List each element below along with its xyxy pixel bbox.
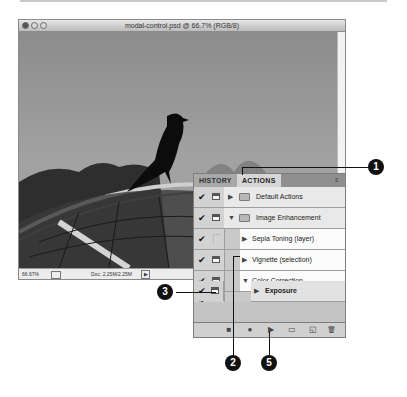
tab-history[interactable]: HISTORY xyxy=(194,174,237,187)
callout-3: 3 xyxy=(157,284,173,300)
status-menu-arrow-icon[interactable]: ▶ xyxy=(141,270,150,279)
toggle-item-checkbox[interactable]: ✔ xyxy=(194,187,210,207)
callout-1: 1 xyxy=(368,159,384,175)
expand-triangle-icon[interactable]: ▶ xyxy=(242,229,247,249)
dialog-icon xyxy=(212,193,220,200)
callout-2: 2 xyxy=(225,355,241,371)
toggle-dialog-box[interactable] xyxy=(209,250,225,270)
dialog-icon xyxy=(212,256,220,263)
folder-icon xyxy=(239,214,250,222)
action-row-image-enhancement[interactable]: ✔ ▼ Image Enhancement xyxy=(194,208,345,229)
collapse-triangle-icon[interactable]: ▼ xyxy=(228,208,235,228)
expand-triangle-icon[interactable]: ▶ xyxy=(228,187,233,207)
dialog-icon xyxy=(212,214,220,221)
toggle-item-checkbox[interactable]: ✔ xyxy=(194,250,210,270)
doc-size: Doc: 2.25M/2.25M xyxy=(91,269,132,279)
tab-actions[interactable]: ACTIONS xyxy=(237,174,281,187)
callout-2-leader-v xyxy=(233,256,234,356)
toggle-dialog-box[interactable] xyxy=(209,208,225,228)
callout-1-leader-drop xyxy=(242,167,243,175)
panel-empty-area xyxy=(193,302,346,322)
row-label: Image Enhancement xyxy=(256,208,321,228)
panel-menu-icon[interactable]: ≡ xyxy=(335,177,342,184)
row-label: Sepia Toning (layer) xyxy=(252,229,314,249)
dialog-off-icon xyxy=(213,234,221,244)
toggle-item-checkbox[interactable]: ✔ xyxy=(194,208,210,228)
record-icon[interactable]: ● xyxy=(245,325,255,335)
row-label: Vignette (selection) xyxy=(252,250,312,270)
callout-3-leader xyxy=(176,292,216,293)
folder-icon xyxy=(239,193,250,201)
toggle-dialog-box[interactable] xyxy=(209,229,225,249)
callout-5-leader xyxy=(269,332,270,355)
page-rule xyxy=(20,0,387,2)
callout-2-leader-h xyxy=(233,256,240,257)
trash-icon[interactable]: 🗑 xyxy=(326,325,336,335)
new-action-icon[interactable]: ◱ xyxy=(308,325,318,335)
action-row-sepia-toning[interactable]: ✔ ▶ Sepia Toning (layer) xyxy=(194,229,345,250)
toggle-dialog-box[interactable] xyxy=(209,187,225,207)
action-row-default-actions[interactable]: ✔ ▶ Default Actions xyxy=(194,187,345,208)
expand-triangle-icon[interactable]: ▶ xyxy=(242,250,247,270)
status-icon[interactable] xyxy=(51,271,61,279)
expand-triangle-icon[interactable]: ▶ xyxy=(254,281,259,301)
title-bar[interactable]: modal-control.psd @ 66.7% (RGB/8) xyxy=(19,20,345,32)
window-title: modal-control.psd @ 66.7% (RGB/8) xyxy=(19,20,345,31)
new-set-icon[interactable]: ▭ xyxy=(287,325,297,335)
row-label: Default Actions xyxy=(256,187,303,207)
toggle-dialog-box[interactable] xyxy=(208,281,224,301)
panel-tabs: HISTORY ACTIONS ≡ xyxy=(194,174,345,187)
play-icon[interactable]: ▶ xyxy=(266,325,276,335)
zoom-level[interactable]: 66.67% xyxy=(22,269,39,279)
action-row-vignette[interactable]: ✔ ▶ Vignette (selection) xyxy=(194,250,345,271)
toggle-item-checkbox[interactable]: ✔ xyxy=(194,229,210,249)
callout-5: 5 xyxy=(261,355,277,371)
row-label: Exposure xyxy=(265,281,297,301)
callout-1-leader xyxy=(242,167,370,168)
